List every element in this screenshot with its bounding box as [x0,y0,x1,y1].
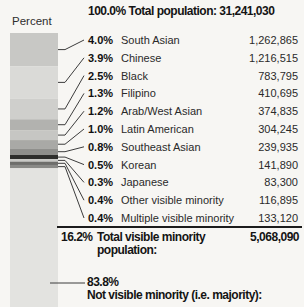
minority-row: 3.9%Chinese1,216,515 [88,49,298,67]
y-axis-label: Percent [12,15,52,27]
leader-line [58,147,84,152]
leader-line [58,40,84,50]
group-name: Arab/West Asian [119,105,246,117]
total-percent: 16.2% [61,231,97,257]
bar-segment [10,119,58,130]
bar-segment [10,66,58,98]
group-percent: 1.2% [88,105,119,117]
leader-line [58,58,84,83]
minority-row: 0.3%Japanese83,300 [88,173,298,191]
group-population: 783,795 [246,70,298,82]
group-population: 239,935 [246,141,298,153]
group-percent: 1.0% [88,123,119,135]
group-percent: 0.4% [88,194,119,206]
minority-row: 2.5%Black783,795 [88,67,298,85]
group-name: Chinese [119,52,246,64]
group-name: Multiple visible minority [119,212,246,224]
bar-segment [10,33,58,66]
group-percent: 4.0% [88,34,119,46]
minority-row: 0.4%Multiple visible minority133,120 [88,209,298,227]
group-name: South Asian [119,34,246,46]
minority-row: 0.4%Other visible minority116,895 [88,191,298,209]
group-percent: 1.3% [88,87,119,99]
group-name: Japanese [119,176,246,188]
group-name: Filipino [119,87,246,99]
majority-block: 83.8% Not visible minority (i.e. majorit… [87,276,302,302]
minority-row: 0.8%Southeast Asian239,935 [88,138,298,156]
minority-row: 0.5%Korean141,890 [88,156,298,174]
group-population: 83,300 [246,176,298,188]
total-value: 5,068,090 [227,231,299,257]
group-name: Latin American [119,123,246,135]
bar-segment-majority [10,168,58,307]
bar-segment [10,130,58,140]
leader-line [58,129,84,144]
leader-line [58,76,84,109]
group-percent: 3.9% [88,52,119,64]
group-population: 1,216,515 [246,52,298,64]
bar-segment [10,148,58,155]
bar-segment [10,155,58,159]
total-visible-minority-row: 16.2% Total visible minority population:… [61,231,299,257]
majority-label: Not visible minority (i.e. majority): [87,289,302,302]
total-divider-line [57,226,302,228]
group-name: Black [119,70,246,82]
minority-row: 1.3%Filipino410,695 [88,84,298,102]
group-percent: 0.4% [88,212,119,224]
minority-row: 1.0%Latin American304,245 [88,120,298,138]
group-population: 304,245 [246,123,298,135]
minority-row: 4.0%South Asian1,262,865 [88,31,298,49]
group-population: 410,695 [246,87,298,99]
bar-segment [10,140,58,148]
group-percent: 2.5% [88,70,119,82]
visible-minority-chart: Percent 100.0% Total population: 31,241,… [0,0,304,307]
group-population: 1,262,865 [246,34,298,46]
bar-segment [10,159,58,161]
minority-row: 1.2%Arab/West Asian374,835 [88,102,298,120]
group-name: Korean [119,159,246,171]
bar-segment [10,99,58,120]
chart-title: 100.0% Total population: 31,241,030 [88,4,302,18]
group-name: Southeast Asian [119,141,246,153]
group-percent: 0.8% [88,141,119,153]
group-population: 374,835 [246,105,298,117]
group-name: Other visible minority [119,194,246,206]
group-population: 141,890 [246,159,298,171]
total-label: Total visible minority population: [97,231,227,257]
bar-segment [10,165,58,168]
bar-segment [10,162,58,165]
group-percent: 0.3% [88,176,119,188]
group-population: 133,120 [246,212,298,224]
group-population: 116,895 [246,194,298,206]
group-percent: 0.5% [88,159,119,171]
